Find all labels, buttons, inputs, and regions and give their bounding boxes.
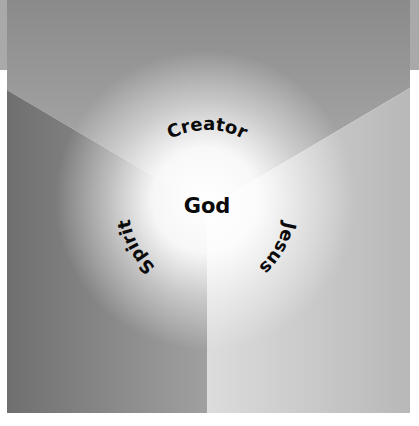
trinity-diagram: God Creator Jesus Spirit [7,0,410,413]
center-label-god: God [184,194,231,218]
